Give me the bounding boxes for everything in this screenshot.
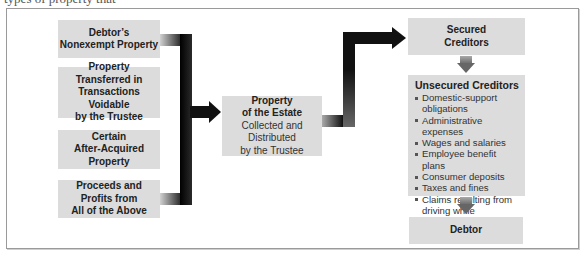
caption-fragment: types of property that: [4, 0, 116, 7]
source-line: Debtor’s: [89, 27, 130, 40]
arrow-down-icon: [457, 63, 475, 73]
arrow-right-icon: [392, 27, 406, 49]
connector-to-estate-shaft: [190, 106, 210, 118]
debtor-label: Debtor: [450, 224, 482, 237]
estate-title-line: of the Estate: [242, 107, 302, 120]
secured-line: Creditors: [444, 37, 488, 50]
source-box-voidable-transfers: Property Transferred in Transactions Voi…: [58, 67, 160, 118]
list-item: Employee benefit plans: [415, 148, 520, 171]
unsecured-title: Unsecured Creditors: [415, 79, 520, 92]
connector-to-secured-shaft: [343, 32, 393, 44]
source-line: Certain: [92, 131, 126, 144]
estate-title-line: Property: [251, 95, 292, 108]
list-item: Domestic-support obligations: [415, 92, 520, 115]
arrow-down-icon: [457, 204, 475, 214]
secured-creditors-box: Secured Creditors: [408, 18, 525, 55]
source-line: Proceeds and: [76, 180, 142, 193]
source-line: After-Acquired: [74, 143, 144, 156]
source-line: Transactions Voidable: [58, 86, 160, 111]
source-line: Property: [88, 156, 129, 169]
source-line: Nonexempt Property: [60, 39, 158, 52]
secured-line: Secured: [447, 24, 486, 37]
list-item: Administrative expenses: [415, 115, 520, 138]
estate-box: Property of the Estate Collected and Dis…: [222, 96, 322, 156]
list-item: Consumer deposits: [415, 171, 520, 182]
source-line: All of the Above: [71, 205, 147, 218]
source-box-after-acquired-property: Certain After-Acquired Property: [58, 130, 160, 169]
estate-desc-line: by the Trustee: [240, 145, 303, 158]
source-line: Profits from: [81, 193, 138, 206]
source-box-proceeds-and-profits: Proceeds and Profits from All of the Abo…: [58, 180, 160, 218]
list-item: Taxes and fines: [415, 182, 520, 193]
unsecured-creditors-box: Unsecured Creditors Domestic-support obl…: [408, 75, 525, 196]
list-item: Wages and salaries: [415, 137, 520, 148]
source-line: Transferred in: [76, 74, 143, 87]
connector-vertical-bar: [180, 34, 192, 205]
connector-up-bar: [343, 32, 355, 127]
estate-desc-line: Collected and: [241, 120, 302, 133]
source-line: Property: [88, 61, 129, 74]
source-line: by the Trustee: [75, 111, 143, 124]
arrow-right-icon: [209, 101, 221, 123]
debtor-box: Debtor: [409, 217, 523, 244]
source-box-nonexempt-property: Debtor’s Nonexempt Property: [58, 20, 160, 58]
estate-desc-line: Distributed: [248, 132, 296, 145]
